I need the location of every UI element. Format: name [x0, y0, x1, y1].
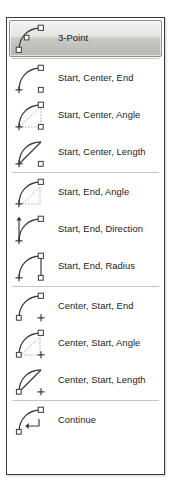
menu-item-start-end-angle[interactable]: Start, End, Angle: [9, 174, 162, 211]
arc-center-start-end-icon: [12, 290, 58, 324]
menu-item-label: Start, Center, Length: [58, 147, 146, 157]
menu-item-label: Center, Start, Angle: [58, 338, 140, 348]
menu-item-label: Start, End, Angle: [58, 187, 129, 197]
menu-item-label: Start, End, Radius: [58, 261, 135, 271]
menu-separator: [12, 400, 159, 401]
menu-item-3-point[interactable]: 3-Point: [9, 20, 162, 57]
menu-separator: [12, 58, 159, 59]
menu-separator: [12, 172, 159, 173]
menu-item-list: 3-Point Start, Center, End: [7, 18, 164, 474]
menu-item-center-start-end[interactable]: Center, Start, End: [9, 288, 162, 325]
arc-start-center-length-icon: [12, 136, 58, 170]
menu-item-continue[interactable]: Continue: [9, 402, 162, 439]
menu-item-label: Start, Center, Angle: [58, 110, 140, 120]
menu-item-label: Center, Start, End: [58, 301, 133, 311]
arc-start-center-end-icon: [12, 62, 58, 96]
menu-item-label: Center, Start, Length: [58, 375, 146, 385]
menu-item-label: Continue: [58, 415, 96, 425]
menu-separator: [12, 286, 159, 287]
arc-continue-icon: [12, 404, 58, 438]
menu-item-start-end-radius[interactable]: Start, End, Radius: [9, 248, 162, 285]
arc-3-point-icon: [12, 22, 58, 56]
menu-item-label: Start, Center, End: [58, 73, 133, 83]
menu-item-label: 3-Point: [58, 33, 88, 43]
menu-item-center-start-length[interactable]: Center, Start, Length: [9, 362, 162, 399]
menu-item-start-center-end[interactable]: Start, Center, End: [9, 60, 162, 97]
arc-start-center-angle-icon: [12, 99, 58, 133]
arc-center-start-length-icon: [12, 364, 58, 398]
menu-item-center-start-angle[interactable]: Center, Start, Angle: [9, 325, 162, 362]
menu-item-label: Start, End, Direction: [58, 224, 143, 234]
arc-tool-dropdown-menu[interactable]: 3-Point Start, Center, End: [6, 17, 165, 475]
menu-item-start-end-direction[interactable]: Start, End, Direction: [9, 211, 162, 248]
arc-start-end-direction-icon: [12, 213, 58, 247]
arc-start-end-radius-icon: [12, 250, 58, 284]
menu-item-start-center-angle[interactable]: Start, Center, Angle: [9, 97, 162, 134]
menu-item-start-center-length[interactable]: Start, Center, Length: [9, 134, 162, 171]
arc-center-start-angle-icon: [12, 327, 58, 361]
arc-start-end-angle-icon: [12, 176, 58, 210]
